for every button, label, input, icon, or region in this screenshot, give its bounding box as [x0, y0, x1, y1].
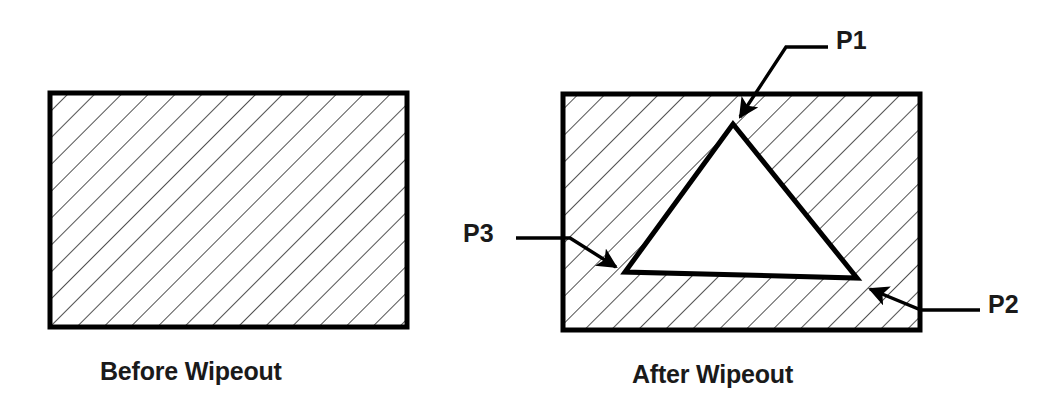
after-hatch-fill — [563, 94, 920, 330]
point-label-p2: P2 — [988, 290, 1019, 319]
panel-after-wipeout — [563, 94, 920, 330]
figure-canvas: P1 P3 P2 Before Wipeout After Wipeout — [0, 0, 1062, 419]
point-label-p1: P1 — [836, 26, 867, 55]
before-hatch-fill — [50, 93, 407, 327]
panel-before-wipeout — [50, 93, 407, 327]
caption-after-wipeout: After Wipeout — [632, 360, 793, 389]
caption-before-wipeout: Before Wipeout — [100, 357, 282, 386]
point-label-p3: P3 — [463, 219, 494, 248]
